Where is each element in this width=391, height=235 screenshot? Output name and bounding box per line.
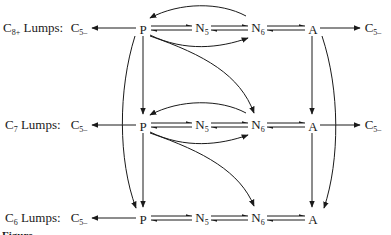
node-n6-row2: N6 — [251, 118, 264, 134]
row-label-c6-lumps: C6 Lumps: — [5, 211, 61, 227]
label-main: C — [3, 20, 12, 35]
arc-n6-to-p-row1 — [150, 6, 246, 18]
arc-a1-to-a3 — [322, 36, 336, 208]
node-c5-left-row3: C5– — [71, 211, 88, 227]
label-rest: Lumps: — [20, 20, 63, 35]
label-main: C — [5, 117, 14, 132]
equilibria-row3 — [151, 216, 305, 220]
arc-p1-to-p3 — [122, 36, 136, 208]
arc-p1-to-n6-row2 — [150, 36, 254, 113]
label-rest: Lumps: — [18, 210, 61, 225]
arc-n6-to-p-row2 — [150, 103, 246, 115]
node-p-row2: P — [139, 120, 146, 133]
node-c5-right-row2: C5– — [365, 118, 382, 134]
equilibria-row1 — [151, 26, 305, 30]
node-c5-left-row2: C5– — [71, 118, 88, 134]
node-c5-right-row1: C5– — [365, 21, 382, 37]
label-sub: 8+ — [12, 28, 21, 37]
node-n6-row3: N6 — [251, 211, 264, 227]
row-label-c7-lumps: C7 Lumps: — [5, 118, 61, 134]
node-p-row3: P — [139, 213, 146, 226]
node-a-row3: A — [308, 213, 317, 226]
node-n5-row1: N5 — [195, 21, 208, 37]
label-rest: Lumps: — [18, 117, 61, 132]
row-label-c8-lumps: C8+ Lumps: — [3, 21, 63, 37]
node-a-row2: A — [308, 120, 317, 133]
node-n6-row1: N6 — [251, 21, 264, 37]
figure-caption-clipped: Figure — [2, 229, 33, 235]
equilibria-row2 — [151, 123, 305, 127]
node-c5-left-row1: C5– — [71, 21, 88, 37]
node-p-row1: P — [139, 23, 146, 36]
label-main: C — [5, 210, 14, 225]
node-n5-row3: N5 — [195, 211, 208, 227]
node-n5-row2: N5 — [195, 118, 208, 134]
node-a-row1: A — [308, 23, 317, 36]
